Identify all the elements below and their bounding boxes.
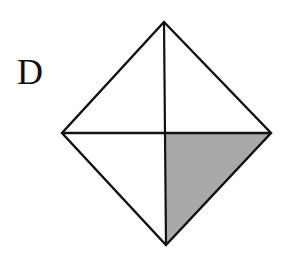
diamond-diagram (0, 0, 292, 259)
